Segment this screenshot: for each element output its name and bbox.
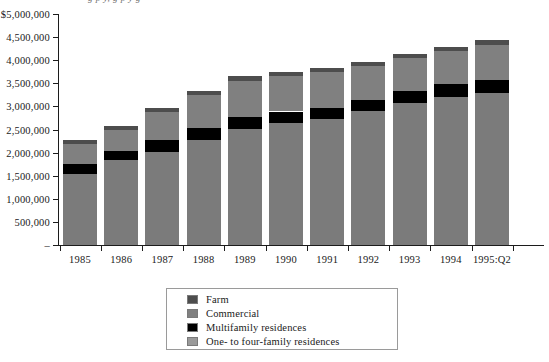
bar-segment bbox=[393, 58, 427, 91]
y-axis-label: $5,000,000 bbox=[1, 9, 50, 20]
legend-swatch-multi bbox=[187, 323, 198, 332]
x-axis-label-1992: 1992 bbox=[357, 254, 379, 265]
bar-segment bbox=[310, 72, 344, 108]
bar-segment bbox=[228, 117, 262, 129]
bar-segment bbox=[63, 140, 97, 144]
bar-segment bbox=[393, 103, 427, 245]
bar-segment bbox=[145, 152, 179, 245]
x-tick-mark bbox=[472, 245, 473, 251]
bar-segment bbox=[187, 128, 221, 140]
bar-segment bbox=[228, 129, 262, 245]
legend-item: One- to four-family residences bbox=[187, 335, 397, 349]
bar-segment bbox=[434, 47, 468, 51]
bar-segment bbox=[351, 62, 385, 66]
y-axis-label: 500,000 bbox=[14, 216, 50, 227]
x-tick-mark bbox=[266, 245, 267, 251]
bar-1985 bbox=[63, 140, 97, 245]
y-tick-mark bbox=[53, 199, 59, 200]
bar-1992 bbox=[351, 62, 385, 245]
bar-segment bbox=[269, 76, 303, 112]
bar-1988 bbox=[187, 91, 221, 245]
y-axis-label: 3,500,000 bbox=[6, 78, 50, 89]
bar-segment bbox=[104, 151, 138, 160]
bar-segment bbox=[228, 76, 262, 80]
bar-segment bbox=[228, 81, 262, 117]
bar-segment bbox=[351, 111, 385, 245]
bar-segment bbox=[63, 164, 97, 174]
x-axis-label-1988: 1988 bbox=[193, 254, 215, 265]
bar-segment bbox=[351, 66, 385, 100]
bar-segment bbox=[475, 93, 509, 245]
bar-segment bbox=[310, 119, 344, 245]
legend-swatch-commercial bbox=[187, 309, 198, 318]
bar-segment bbox=[310, 108, 344, 120]
bar-segment bbox=[187, 140, 221, 245]
x-tick-mark bbox=[183, 245, 184, 251]
legend-label: One- to four-family residences bbox=[206, 336, 339, 347]
y-axis-label: 2,000,000 bbox=[6, 147, 50, 158]
bar-segment bbox=[63, 174, 97, 245]
bar-segment bbox=[145, 112, 179, 140]
bar-segment bbox=[269, 112, 303, 124]
bar-segment bbox=[63, 144, 97, 164]
bar-segment bbox=[104, 126, 138, 130]
bar-segment bbox=[434, 97, 468, 245]
bar-segment bbox=[475, 45, 509, 80]
x-axis-label-1994: 1994 bbox=[440, 254, 462, 265]
legend-item: Farm bbox=[187, 293, 397, 307]
bar-segment bbox=[434, 84, 468, 97]
y-axis-label: 4,000,000 bbox=[6, 55, 50, 66]
x-tick-mark bbox=[513, 245, 514, 251]
legend-swatch-onefour bbox=[187, 337, 198, 346]
bar-segment bbox=[475, 80, 509, 93]
bar-segment bbox=[393, 91, 427, 103]
bar-segment bbox=[310, 68, 344, 72]
bar-1991 bbox=[310, 68, 344, 245]
legend-label: Farm bbox=[206, 294, 229, 305]
y-tick-mark bbox=[53, 106, 59, 107]
bar-segment bbox=[187, 95, 221, 127]
bar-1989 bbox=[228, 76, 262, 245]
y-axis-label: 1,500,000 bbox=[6, 170, 50, 181]
bar-1990 bbox=[269, 72, 303, 245]
bar-1986 bbox=[104, 126, 138, 245]
y-tick-mark bbox=[53, 83, 59, 84]
x-tick-mark bbox=[348, 245, 349, 251]
bar-segment bbox=[104, 160, 138, 245]
bar-segment bbox=[434, 51, 468, 84]
y-axis-label: 2,500,000 bbox=[6, 124, 50, 135]
x-axis-label-1991: 1991 bbox=[316, 254, 338, 265]
x-axis-label-1995-Q2: 1995:Q2 bbox=[473, 254, 511, 265]
x-tick-mark bbox=[142, 245, 143, 251]
y-tick-mark bbox=[53, 153, 59, 154]
truncated-title-text: g p y, g p y g bbox=[88, 0, 141, 3]
bar-segment bbox=[269, 123, 303, 245]
chart-legend: FarmCommercialMultifamily residencesOne-… bbox=[166, 288, 398, 350]
x-axis-label-1993: 1993 bbox=[399, 254, 421, 265]
x-tick-mark bbox=[60, 245, 61, 251]
y-axis-label: 1,000,000 bbox=[6, 193, 50, 204]
bar-1994 bbox=[434, 47, 468, 245]
y-tick-mark bbox=[53, 245, 59, 246]
x-axis-label-1989: 1989 bbox=[234, 254, 256, 265]
y-tick-mark bbox=[53, 60, 59, 61]
y-tick-mark bbox=[53, 37, 59, 38]
x-tick-mark bbox=[389, 245, 390, 251]
bar-segment bbox=[187, 91, 221, 95]
x-axis-label-1985: 1985 bbox=[69, 254, 91, 265]
x-tick-mark bbox=[101, 245, 102, 251]
bar-1987 bbox=[145, 108, 179, 245]
bar-segment bbox=[393, 54, 427, 58]
legend-label: Multifamily residences bbox=[206, 322, 306, 333]
x-tick-mark bbox=[307, 245, 308, 251]
legend-rows: FarmCommercialMultifamily residencesOne-… bbox=[187, 293, 397, 349]
legend-swatch-farm bbox=[187, 295, 198, 304]
bar-segment bbox=[475, 40, 509, 44]
bar-1993 bbox=[393, 54, 427, 245]
bar-segment bbox=[104, 130, 138, 152]
x-tick-mark bbox=[430, 245, 431, 251]
bar-segment bbox=[351, 100, 385, 112]
y-tick-mark bbox=[53, 14, 59, 15]
x-axis-label-1990: 1990 bbox=[275, 254, 297, 265]
plot-area: –500,0001,000,0001,500,0002,000,0002,500… bbox=[58, 14, 544, 245]
